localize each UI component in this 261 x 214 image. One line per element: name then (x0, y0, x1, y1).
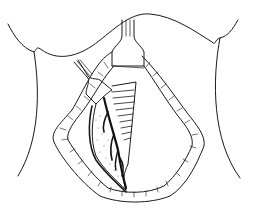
incision-inner (68, 66, 193, 192)
body-contour-top (8, 14, 238, 57)
fat-lobules-right (146, 62, 198, 176)
vessel-top-inner (126, 20, 130, 36)
body-side-left (18, 52, 37, 176)
surgical-illustration (0, 0, 261, 214)
organ-striations (112, 90, 134, 140)
illustration-canvas (0, 0, 261, 214)
organ-edge (89, 106, 126, 192)
branching-vessels (103, 98, 126, 188)
body-side-right (215, 38, 240, 178)
organ-striated (112, 82, 136, 190)
vessel-left (74, 60, 112, 104)
